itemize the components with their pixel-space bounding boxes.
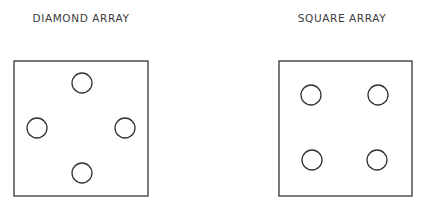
hole-circle (72, 73, 92, 93)
array-diagram (0, 0, 426, 206)
hole-circle (72, 163, 92, 183)
hole-circle (302, 150, 322, 170)
hole-circle (368, 85, 388, 105)
diamond-array-panel (14, 61, 148, 196)
hole-circle (27, 118, 47, 138)
square-array-panel (279, 61, 412, 196)
plate-outline (279, 61, 412, 196)
hole-circle (301, 85, 321, 105)
plate-outline (14, 61, 148, 196)
hole-circle (115, 118, 135, 138)
hole-circle (367, 150, 387, 170)
